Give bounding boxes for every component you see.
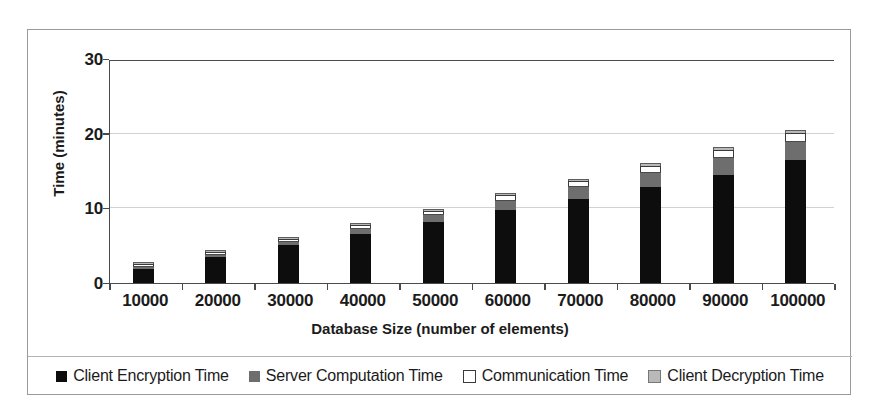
x-tick-mark (689, 284, 691, 290)
x-tick-label: 70000 (544, 292, 617, 309)
legend-label: Communication Time (482, 367, 629, 385)
x-tick-mark (762, 284, 764, 290)
bar-group[interactable] (278, 237, 299, 283)
y-tick-label: 10 (84, 200, 103, 217)
bar-group[interactable] (133, 262, 154, 283)
bar-segment (278, 245, 299, 283)
x-tick-mark (327, 284, 329, 290)
bar-segment (785, 160, 806, 283)
legend-swatch-icon (463, 370, 476, 383)
x-tick-label: 100000 (762, 292, 835, 309)
x-tick-label: 10000 (109, 292, 182, 309)
plot-area (109, 60, 834, 284)
y-tick-label: 0 (94, 275, 103, 292)
bar-group[interactable] (785, 130, 806, 283)
bar-group[interactable] (350, 223, 371, 283)
y-tick-label: 20 (84, 126, 103, 143)
bar-segment (713, 157, 734, 175)
bar-segment (495, 210, 516, 283)
bar-segment (640, 187, 661, 283)
bar-segment (205, 257, 226, 283)
bar-segment (423, 222, 444, 283)
y-tick-label: 30 (84, 51, 103, 68)
bar-segment (713, 150, 734, 157)
bar-segment (568, 199, 589, 283)
bar-group[interactable] (640, 163, 661, 283)
legend-item[interactable]: Client Decryption Time (648, 367, 824, 385)
bar-segment (423, 214, 444, 222)
bar-segment (713, 175, 734, 283)
x-tick-label: 40000 (327, 292, 400, 309)
bar-segment (495, 200, 516, 210)
x-tick-label: 90000 (689, 292, 762, 309)
y-axis-tick-labels: 0102030 (59, 60, 103, 284)
bar-segment (640, 172, 661, 187)
x-tick-label: 50000 (399, 292, 472, 309)
legend-label: Client Decryption Time (667, 367, 824, 385)
x-tick-mark (472, 284, 474, 290)
x-tick-mark (544, 284, 546, 290)
bar-group[interactable] (713, 147, 734, 283)
legend-item[interactable]: Client Encryption Time (56, 367, 229, 385)
x-tick-mark (617, 284, 619, 290)
bar-group[interactable] (568, 179, 589, 283)
chart-figure: Time (minutes) 0102030 10000200003000040… (27, 29, 851, 395)
legend-swatch-icon (648, 370, 661, 383)
bar-segment (568, 186, 589, 199)
legend-label: Client Encryption Time (73, 367, 229, 385)
chart-legend: Client Encryption TimeServer Computation… (28, 357, 852, 395)
bar-group[interactable] (423, 209, 444, 283)
x-tick-mark (254, 284, 256, 290)
x-axis-tick-marks (109, 284, 834, 290)
bar-segment (133, 269, 154, 283)
legend-item[interactable]: Communication Time (463, 367, 629, 385)
bar-group[interactable] (495, 193, 516, 283)
x-tick-mark (834, 284, 836, 290)
legend-swatch-icon (56, 371, 67, 382)
legend-label: Server Computation Time (266, 367, 443, 385)
x-axis-title: Database Size (number of elements) (28, 320, 852, 337)
bar-segment (785, 133, 806, 140)
x-tick-mark (109, 284, 111, 290)
x-axis-tick-labels: 1000020000300004000050000600007000080000… (109, 292, 834, 316)
legend-swatch-icon (249, 371, 260, 382)
x-tick-label: 80000 (617, 292, 690, 309)
bar-group[interactable] (205, 250, 226, 283)
bar-segment (350, 234, 371, 283)
x-tick-label: 60000 (472, 292, 545, 309)
plot-wrapper: Time (minutes) 0102030 10000200003000040… (28, 30, 852, 330)
x-tick-label: 20000 (182, 292, 255, 309)
legend-item[interactable]: Server Computation Time (249, 367, 443, 385)
x-tick-mark (399, 284, 401, 290)
x-tick-mark (182, 284, 184, 290)
x-tick-label: 30000 (254, 292, 327, 309)
gridline (110, 133, 834, 134)
bar-segment (785, 141, 806, 160)
